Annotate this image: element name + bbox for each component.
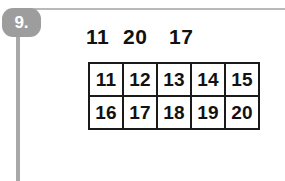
- number-cell[interactable]: 14: [192, 64, 226, 97]
- top-divider-rule: [22, 8, 285, 10]
- number-cell[interactable]: 11: [90, 64, 124, 97]
- number-cell[interactable]: 13: [158, 64, 192, 97]
- prompt-number-3: 17: [169, 24, 193, 50]
- question-number-badge: 9.: [2, 8, 41, 37]
- number-grid-row: 11 12 13 14 15: [90, 64, 260, 97]
- number-cell[interactable]: 17: [124, 97, 158, 130]
- number-cell[interactable]: 15: [226, 64, 260, 97]
- prompt-number-1: 11: [86, 24, 109, 50]
- number-cell[interactable]: 12: [124, 64, 158, 97]
- number-grid-row: 16 17 18 19 20: [90, 97, 260, 130]
- prompt-numbers-row: 11 20 17: [86, 24, 276, 50]
- number-grid: 11 12 13 14 15 16 17 18 19 20: [88, 62, 260, 130]
- prompt-number-2: 20: [123, 24, 147, 50]
- worksheet-page: 9. 11 20 17 11 12 13 14 15 16 17 18 19 2…: [0, 0, 285, 181]
- number-cell[interactable]: 16: [90, 97, 124, 130]
- left-spine-line: [16, 28, 20, 181]
- number-cell[interactable]: 18: [158, 97, 192, 130]
- number-cell[interactable]: 19: [192, 97, 226, 130]
- number-cell[interactable]: 20: [226, 97, 260, 130]
